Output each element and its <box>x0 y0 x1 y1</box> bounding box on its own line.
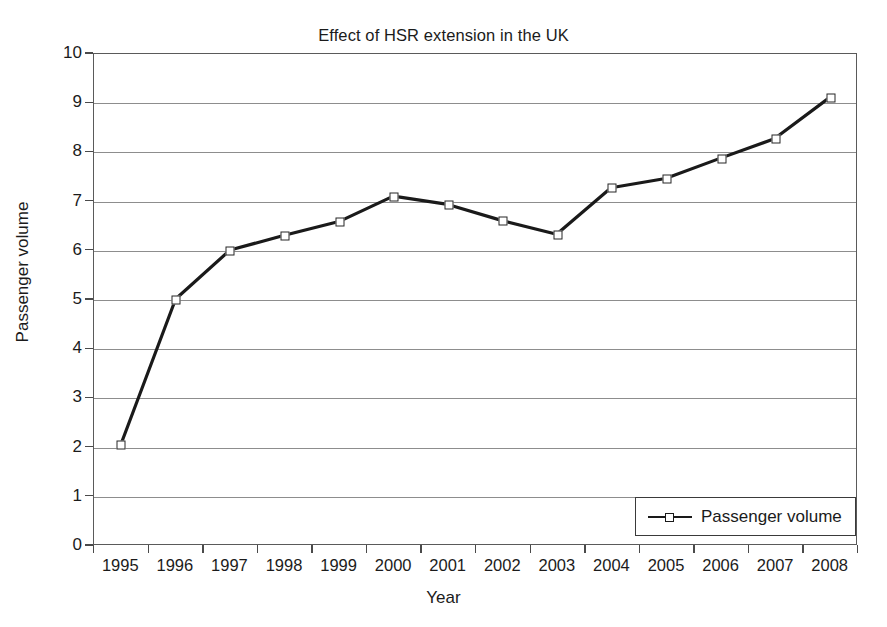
x-tick-mark <box>257 545 258 553</box>
x-tick-mark <box>857 545 858 553</box>
y-tick-label: 4 <box>38 338 82 358</box>
x-tick-label: 2005 <box>648 556 685 575</box>
x-tick-label: 1995 <box>102 556 139 575</box>
y-tick-mark <box>85 544 93 545</box>
data-point-marker <box>663 174 672 183</box>
x-tick-label: 1996 <box>156 556 193 575</box>
x-tick-label: 2000 <box>375 556 412 575</box>
data-point-marker <box>826 94 835 103</box>
x-tick-label: 2001 <box>429 556 466 575</box>
y-tick-label: 5 <box>38 289 82 309</box>
x-tick-mark <box>584 545 585 553</box>
y-tick-label: 8 <box>38 141 82 161</box>
x-tick-mark <box>202 545 203 553</box>
y-tick-mark <box>85 446 93 447</box>
data-point-marker <box>717 154 726 163</box>
chart-figure: Effect of HSR extension in the UK Passen… <box>0 0 887 627</box>
y-tick-label: 6 <box>38 240 82 260</box>
x-tick-label: 1999 <box>320 556 357 575</box>
y-tick-label: 3 <box>38 387 82 407</box>
data-point-marker <box>499 217 508 226</box>
chart-title: Effect of HSR extension in the UK <box>0 26 887 45</box>
x-tick-mark <box>148 545 149 553</box>
data-point-marker <box>608 184 617 193</box>
y-tick-mark <box>85 298 93 299</box>
data-point-marker <box>226 246 235 255</box>
y-tick-label: 7 <box>38 191 82 211</box>
data-point-marker <box>117 441 126 450</box>
x-axis-tick-labels: 1995199619971998199920002001200220032004… <box>0 556 887 582</box>
x-tick-label: 2002 <box>484 556 521 575</box>
data-point-marker <box>772 135 781 144</box>
x-tick-label: 2006 <box>702 556 739 575</box>
x-tick-mark <box>693 545 694 553</box>
data-point-marker <box>281 232 290 241</box>
y-tick-mark <box>85 52 93 53</box>
y-tick-label: 2 <box>38 437 82 457</box>
y-tick-mark <box>85 348 93 349</box>
chart-legend[interactable]: Passenger volume <box>635 497 856 536</box>
series-line-layer <box>94 54 856 544</box>
y-tick-label: 0 <box>38 535 82 555</box>
legend-line-marker-icon <box>648 511 692 523</box>
y-tick-mark <box>85 249 93 250</box>
x-tick-mark <box>420 545 421 553</box>
x-tick-mark <box>311 545 312 553</box>
x-tick-mark <box>639 545 640 553</box>
plot-area <box>93 53 857 545</box>
y-tick-mark <box>85 397 93 398</box>
x-tick-label: 2004 <box>593 556 630 575</box>
x-tick-mark <box>748 545 749 553</box>
data-point-marker <box>335 218 344 227</box>
x-tick-label: 1997 <box>211 556 248 575</box>
x-tick-label: 2003 <box>538 556 575 575</box>
x-axis-title: Year <box>0 588 887 608</box>
y-tick-label: 9 <box>38 92 82 112</box>
data-point-marker <box>171 296 180 305</box>
y-tick-label: 10 <box>38 43 82 63</box>
x-tick-mark <box>802 545 803 553</box>
x-tick-mark <box>475 545 476 553</box>
data-point-marker <box>390 192 399 201</box>
y-tick-mark <box>85 102 93 103</box>
y-tick-mark <box>85 495 93 496</box>
x-tick-mark <box>93 545 94 553</box>
x-tick-label: 2008 <box>811 556 848 575</box>
x-tick-mark <box>366 545 367 553</box>
y-tick-label: 1 <box>38 486 82 506</box>
y-tick-mark <box>85 151 93 152</box>
y-tick-mark <box>85 200 93 201</box>
x-tick-label: 1998 <box>266 556 303 575</box>
x-tick-label: 2007 <box>757 556 794 575</box>
data-point-marker <box>444 201 453 210</box>
x-tick-mark <box>530 545 531 553</box>
data-point-marker <box>553 231 562 240</box>
legend-entry-label: Passenger volume <box>701 507 842 527</box>
series-polyline <box>121 98 829 443</box>
